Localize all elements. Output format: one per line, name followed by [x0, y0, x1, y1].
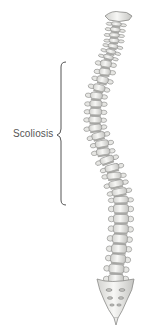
vertebra — [104, 32, 125, 39]
vertebra — [101, 171, 126, 181]
vertebra — [84, 108, 107, 117]
vertebra — [85, 91, 108, 101]
vertebra — [84, 116, 107, 124]
vertebra — [108, 224, 134, 235]
vertebra — [85, 100, 108, 108]
vertebra — [103, 264, 129, 276]
atlas-vertebra — [105, 12, 132, 22]
vertebra — [108, 205, 133, 215]
spine-illustration — [0, 0, 155, 331]
vertebra — [105, 253, 131, 265]
vertebra — [104, 38, 125, 45]
vertebral-column — [83, 21, 133, 285]
vertebra — [94, 68, 116, 78]
vertebra — [107, 234, 133, 246]
sacrum — [97, 279, 134, 325]
curly-bracket-icon — [57, 62, 66, 205]
vertebra — [108, 196, 134, 205]
vertebra — [108, 215, 133, 225]
vertebra — [106, 244, 132, 255]
